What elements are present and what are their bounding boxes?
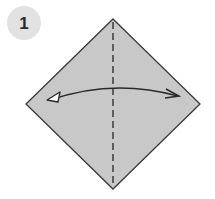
origami-diagram [0, 0, 215, 199]
